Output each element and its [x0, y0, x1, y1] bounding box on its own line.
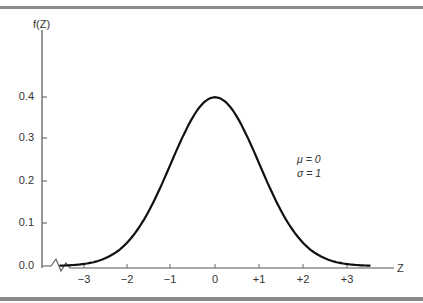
y-tick-label-0.3: 0.3 [4, 131, 34, 143]
y-axis-title: f(Z) [33, 18, 50, 30]
normal-curve [60, 97, 369, 265]
x-axis-title: Z [397, 262, 404, 274]
x-tick-label-neg2: −2 [115, 273, 139, 285]
mu-annotation: μ = 0 [297, 152, 321, 166]
sigma-annotation: σ = 1 [297, 166, 321, 180]
x-tick-label-pos3: +3 [335, 273, 359, 285]
y-axis-ticks [42, 97, 47, 223]
y-tick-label-0.4: 0.4 [4, 90, 34, 102]
normal-distribution-plot [0, 0, 423, 303]
x-tick-label-neg1: −1 [158, 273, 182, 285]
y-tick-label-0.0: 0.0 [4, 259, 34, 271]
distribution-parameters: μ = 0 σ = 1 [297, 152, 321, 180]
y-tick-label-0.1: 0.1 [4, 216, 34, 228]
x-tick-label-0: 0 [203, 273, 227, 285]
x-tick-label-pos2: +2 [291, 273, 315, 285]
x-tick-label-neg3: −3 [72, 273, 96, 285]
y-tick-label-0.2: 0.2 [4, 174, 34, 186]
x-tick-label-pos1: +1 [247, 273, 271, 285]
